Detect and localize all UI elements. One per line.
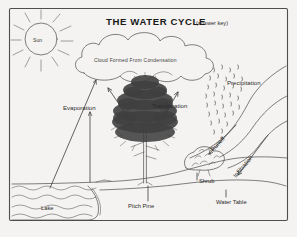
rain-drops-icon bbox=[206, 65, 243, 134]
cloud-label: Cloud Formed From Condensation bbox=[94, 58, 177, 63]
worksheet-page: THE WATER CYCLE (answer key) Sun bbox=[0, 0, 297, 237]
sun-label: Sun bbox=[33, 37, 42, 43]
water-cycle-diagram: THE WATER CYCLE (answer key) Sun bbox=[0, 0, 297, 237]
water-table-label: Water Table bbox=[216, 199, 247, 205]
evaporation-arrow-long bbox=[50, 80, 96, 188]
page-title-subtext: (answer key) bbox=[196, 20, 228, 26]
water-table-line bbox=[100, 180, 286, 190]
transpiration-label: Transpiration bbox=[152, 102, 187, 109]
shrub-label: Shrub bbox=[199, 178, 214, 184]
lake-water bbox=[12, 186, 101, 220]
page-title: THE WATER CYCLE bbox=[106, 16, 206, 27]
pitch-pine-label: Pitch Pine bbox=[128, 203, 154, 209]
precipitation-label: Precipitation bbox=[227, 79, 261, 86]
lake-label: Lake bbox=[41, 205, 54, 211]
pitch-pine-tree bbox=[111, 72, 178, 185]
evaporation-label: Evaporation bbox=[63, 104, 96, 111]
